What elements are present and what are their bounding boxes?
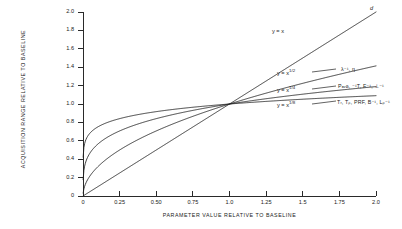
curve-label-base-2: y = x [277,70,289,76]
curve-label-exp-4: 1/8 [289,100,295,105]
curve-y-x-1-4 [83,87,376,180]
curve-label-y-eq-x-eighth: y = x1/8 [277,101,295,108]
curve-label-y-eq-x: y = x [272,27,284,34]
annotation-leader-line [312,101,336,104]
curve-label-exp-2: 1/2 [289,68,295,73]
curve-label-base-1: y = x [272,28,284,34]
curve-label-base-3: y = x [277,87,289,93]
plot-curves [0,0,402,229]
figure-canvas: ACQUISITION RANGE RELATIVE TO BASELINE P… [0,0,402,229]
param-annotation-tr-tp-group: Tᵣ, Tₚ, PRF, B⁻¹, Lₚ⁻¹ [337,100,390,105]
curve-label-y-eq-x-half: y = x1/2 [277,69,295,76]
curve-label-base-4: y = x [277,102,289,108]
curve-annotation-d: d [370,6,373,12]
curve-y-x-1-8 [83,96,376,158]
curve-label-exp-3: 1/4 [289,85,295,90]
param-annotation-pavg-group: Pₐᵥɢ, ⁻¹T, F⁻¹, ⊥⁻¹ [338,84,384,89]
annotation-leader-line [312,69,336,72]
curve-label-y-eq-x-quarter: y = x1/4 [277,86,295,93]
curve-y-x-1-2 [83,66,376,193]
annotation-leader-line [312,86,336,89]
param-annotation-lambda-eta: λ⁻¹, η [341,67,355,72]
